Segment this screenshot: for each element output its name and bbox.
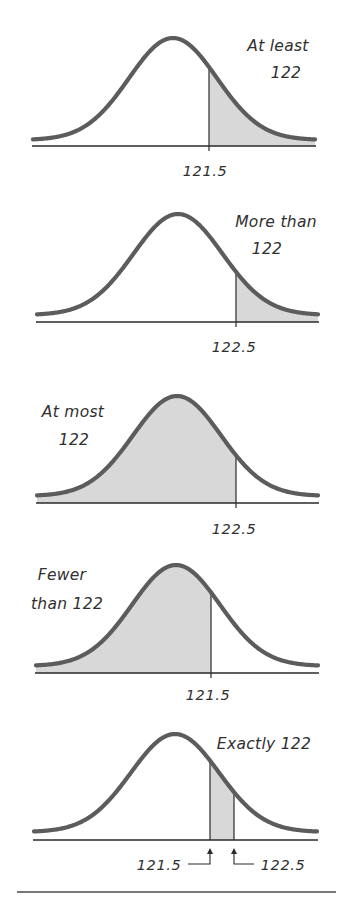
panel-at-least: At least122121.5: [32, 37, 316, 179]
cutoff-value-label: 121.5: [137, 857, 182, 873]
panel-exactly: Exactly 122121.5122.5: [33, 734, 318, 873]
cutoff-value-label: 122.5: [261, 857, 306, 873]
arrow-up-icon: [207, 848, 213, 854]
panel-fewer-than: Fewerthan 122121.5: [31, 565, 319, 703]
panel-label: 122: [271, 64, 302, 82]
panels-group: At least122121.5More than122122.5At most…: [31, 37, 319, 873]
panel-more-than: More than122122.5: [36, 213, 319, 355]
panel-label: 122: [59, 431, 90, 449]
panel-label: At least: [246, 37, 309, 55]
cutoff-value-label: 121.5: [186, 687, 231, 703]
panel-at-most: At most122122.5: [36, 396, 319, 537]
cutoff-value-label: 121.5: [183, 163, 228, 179]
panel-label: 122: [252, 240, 283, 258]
panel-label: Exactly 122: [217, 735, 311, 753]
panel-label: More than: [235, 213, 317, 231]
panel-label: Fewer: [38, 566, 88, 584]
panel-label: At most: [41, 403, 105, 421]
cutoff-value-label: 122.5: [212, 339, 257, 355]
arrow-up-icon: [231, 848, 237, 854]
panel-label: than 122: [31, 595, 103, 613]
shaded-area: [210, 761, 234, 840]
normal-approximation-figure: At least122121.5More than122122.5At most…: [0, 0, 347, 904]
cutoff-value-label: 122.5: [212, 521, 257, 537]
right-pointer-connector: [234, 852, 254, 864]
left-pointer-connector: [188, 852, 210, 864]
